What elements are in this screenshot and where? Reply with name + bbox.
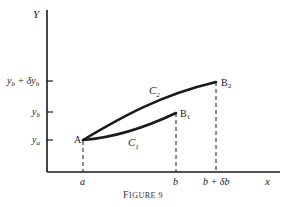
y-tick-label-yb: yb [31, 106, 40, 119]
point-label-a: A [74, 134, 82, 145]
curve-label-c1: C1 [128, 136, 139, 151]
curve-label-c2: C2 [149, 84, 160, 99]
figure-caption: FIGURE 9 [123, 189, 163, 200]
x-axis-label: x [264, 175, 270, 187]
point-label-b2: B2 [221, 77, 232, 90]
x-tick-label-a: a [80, 176, 85, 187]
y-tick-label-ya: ya [31, 134, 40, 147]
y-tick-label-yb-plus-dyb: yb + δyb [6, 75, 40, 88]
y-axis-label: Y [33, 8, 41, 20]
x-tick-label-b: b [173, 176, 178, 187]
x-tick-label-b-plus-db: b + δb [203, 176, 229, 187]
figure-diagram: Y x yb + δyb yb ya a b b + δb A B1 B2 C2… [0, 0, 285, 207]
point-label-b1: B1 [180, 108, 191, 121]
